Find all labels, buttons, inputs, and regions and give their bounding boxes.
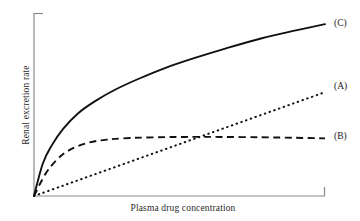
series-line-c (34, 24, 325, 196)
x-axis-label: Plasma drug concentration (113, 203, 253, 213)
series-line-b (34, 137, 325, 196)
series-line-a (34, 92, 325, 196)
chart-figure: Renal excretion rate Plasma drug concent… (0, 0, 360, 221)
chart-series-group (34, 24, 325, 196)
series-label-c: (C) (334, 18, 347, 28)
series-label-a: (A) (334, 81, 347, 91)
chart-axes (34, 13, 325, 196)
y-axis-label: Renal excretion rate (21, 35, 31, 175)
series-label-b: (B) (334, 131, 347, 141)
chart-plot-area (0, 0, 360, 221)
